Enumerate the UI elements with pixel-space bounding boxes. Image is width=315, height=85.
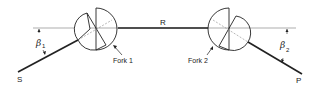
label-p: P xyxy=(296,76,301,85)
label-beta-1: β xyxy=(35,38,41,48)
label-beta-2-sub: 2 xyxy=(286,47,290,53)
label-beta-1-sub: 1 xyxy=(42,43,46,49)
fork-1 xyxy=(74,8,117,50)
segment-s xyxy=(18,40,78,72)
label-s: S xyxy=(17,75,22,84)
segment-p xyxy=(248,42,302,74)
label-fork-1: Fork 1 xyxy=(113,57,133,64)
label-beta-2: β xyxy=(279,40,285,50)
fork-2 xyxy=(208,8,251,51)
label-fork-2: Fork 2 xyxy=(188,57,208,64)
label-r: R xyxy=(160,18,166,27)
fork-diagram: β 1 β 2 R S P Fork 1 Fork 2 xyxy=(0,0,315,85)
